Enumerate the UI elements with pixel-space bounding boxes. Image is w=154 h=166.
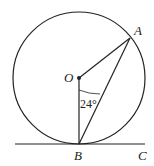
label-a: A <box>133 23 142 38</box>
angle-label: 24° <box>80 97 97 111</box>
label-b: B <box>74 148 82 163</box>
label-c: C <box>138 148 147 163</box>
segment-oa <box>79 38 130 78</box>
center-point-o <box>77 76 81 80</box>
geometry-diagram: O A B C 24° <box>0 0 154 166</box>
angle-arc <box>79 90 100 94</box>
label-o: O <box>64 70 74 85</box>
